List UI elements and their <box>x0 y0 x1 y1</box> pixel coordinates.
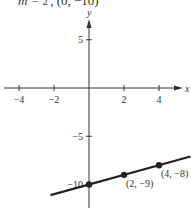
y-tick-label: 5 <box>78 34 83 45</box>
x-axis-label: x <box>184 83 190 94</box>
y-axis-arrow-icon <box>87 19 92 28</box>
plot-area: xy−4−2245−5−10 (2, −9)(4, −8) <box>0 0 191 208</box>
x-tick-label: −4 <box>14 94 25 105</box>
x-tick-label: 4 <box>157 94 162 105</box>
data-point-label: (4, −8) <box>161 168 188 180</box>
x-tick-label: 2 <box>122 94 127 105</box>
data-point <box>86 181 92 187</box>
x-tick-label: −2 <box>49 94 60 105</box>
y-tick-label: −5 <box>72 131 83 142</box>
data-points: (2, −9)(4, −8) <box>86 162 189 190</box>
y-axis-label: y <box>86 7 92 18</box>
x-axis-arrow-icon <box>174 86 183 91</box>
data-point-label: (2, −9) <box>126 178 153 190</box>
